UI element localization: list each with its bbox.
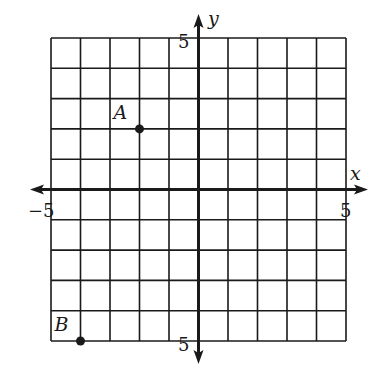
x-axis-label: x bbox=[350, 162, 361, 184]
y-tick-label-min: 5 bbox=[178, 334, 189, 355]
point-label-a: A bbox=[112, 101, 128, 123]
point-b bbox=[76, 337, 85, 346]
coordinate-plane: AB x y −5 5 5 5 bbox=[0, 0, 380, 369]
y-tick-label-max: 5 bbox=[178, 31, 189, 52]
point-label-b: B bbox=[54, 313, 69, 335]
y-axis-label: y bbox=[207, 7, 219, 29]
points: AB bbox=[54, 101, 145, 346]
point-a bbox=[135, 124, 144, 133]
x-tick-label-max: 5 bbox=[340, 200, 351, 221]
x-tick-label-min: −5 bbox=[28, 200, 55, 221]
